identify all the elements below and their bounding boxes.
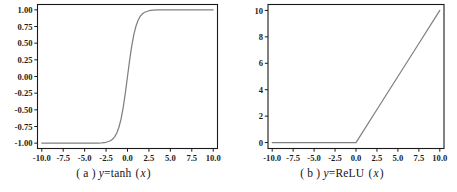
x-tick-label: 7.5 [413, 153, 424, 163]
caption-panel-b: ( b ) y=ReLU (x) [228, 167, 457, 179]
x-tick-label: 2.5 [372, 153, 383, 163]
x-tick-label: -10.0 [33, 153, 51, 163]
chart-panel-tanh: -10.0-7.5-5.0-2.50.02.55.07.510.01.000.7… [0, 0, 228, 192]
x-tick-label: -5.0 [78, 153, 92, 163]
y-tick-label: -1.00 [15, 138, 33, 148]
y-tick-label: 0 [259, 138, 263, 148]
y-tick-label: 0.75 [17, 22, 32, 32]
x-tick-label: 2.5 [144, 153, 155, 163]
caption-a-arg: x [140, 167, 145, 179]
caption-panel-a: ( a ) y=tanh (x) [0, 167, 228, 179]
y-tick-label: 6 [259, 58, 264, 68]
caption-b-arg: x [373, 167, 378, 179]
tanh-plot: -10.0-7.5-5.0-2.50.02.55.07.510.01.000.7… [0, 0, 228, 165]
chart-panel-relu: -10.0-7.5-5.0-2.50.02.55.07.510.00246810… [228, 0, 457, 192]
caption-b-eq: =ReLU [329, 167, 365, 179]
x-tick-label: 0.0 [351, 153, 362, 163]
caption-b-index: ( b ) [300, 167, 320, 179]
x-tick-label: -10.0 [263, 153, 281, 163]
y-tick-label: 0.25 [17, 55, 32, 65]
relu-plot: -10.0-7.5-5.0-2.50.02.55.07.510.00246810 [228, 0, 457, 165]
caption-a-arg-close: ) [146, 167, 152, 179]
y-tick-label: -0.50 [15, 105, 33, 115]
y-tick-label: -0.25 [15, 88, 33, 98]
x-tick-label: 0.0 [122, 153, 133, 163]
x-tick-label: -7.5 [286, 153, 300, 163]
x-tick-label: -2.5 [99, 153, 113, 163]
x-tick-label: 10.0 [206, 153, 221, 163]
y-tick-label: 1.00 [17, 5, 32, 15]
y-tick-label: 0.00 [17, 72, 32, 82]
y-tick-label: 0.50 [17, 38, 32, 48]
x-tick-label: 10.0 [432, 153, 447, 163]
plot-background [268, 5, 444, 149]
x-tick-label: -2.5 [328, 153, 342, 163]
y-tick-label: 2 [259, 111, 263, 121]
y-tick-label: -0.75 [15, 122, 33, 132]
x-tick-label: -5.0 [307, 153, 321, 163]
x-tick-label: 5.0 [393, 153, 404, 163]
y-tick-label: 10 [254, 6, 263, 16]
caption-b-arg-close: ) [379, 167, 385, 179]
y-tick-label: 4 [259, 85, 264, 95]
y-tick-label: 8 [259, 32, 264, 42]
x-tick-label: 7.5 [186, 153, 197, 163]
x-tick-label: 5.0 [165, 153, 176, 163]
x-tick-label: -7.5 [56, 153, 70, 163]
activation-functions-figure: -10.0-7.5-5.0-2.50.02.55.07.510.01.000.7… [0, 0, 457, 192]
caption-a-index: ( a ) [76, 167, 96, 179]
caption-a-eq: =tanh [104, 167, 131, 179]
